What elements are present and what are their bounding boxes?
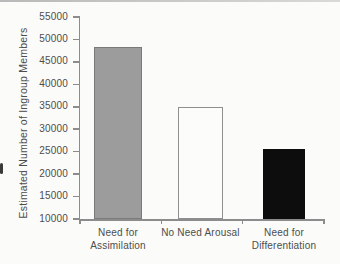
plot-area: 1000015000200002500030000350004000045000… <box>0 0 340 264</box>
y-tick-label: 50000 <box>20 33 68 44</box>
x-category-label: Need for Differentiation <box>224 226 340 252</box>
y-tick-label: 10000 <box>20 213 68 224</box>
bar-no-need-arousal <box>178 107 223 219</box>
y-tick-label: 20000 <box>20 168 68 179</box>
bar-need-for-assimilation <box>94 47 142 219</box>
x-axis-line <box>79 219 325 221</box>
y-tick-label: 55000 <box>20 11 68 22</box>
y-tick-label: 30000 <box>20 123 68 134</box>
y-tick-label: 25000 <box>20 145 68 156</box>
y-tick-label: 15000 <box>20 190 68 201</box>
y-tick-label: 45000 <box>20 55 68 66</box>
bar-need-for-differentiation <box>263 149 305 219</box>
bar-chart-figure: Estimated Number of Ingroup Members 1000… <box>0 0 340 264</box>
y-tick-label: 35000 <box>20 100 68 111</box>
y-tick-label: 40000 <box>20 78 68 89</box>
y-axis-line <box>79 17 81 221</box>
